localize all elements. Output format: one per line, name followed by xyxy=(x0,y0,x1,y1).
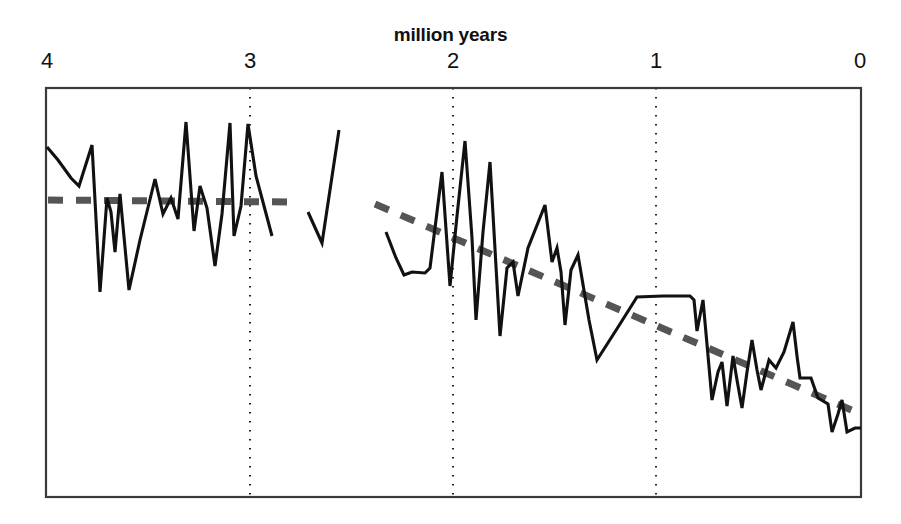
record-segment-3 xyxy=(386,141,861,432)
plot-border xyxy=(46,88,861,497)
record-segment-2 xyxy=(308,130,339,243)
plot-area xyxy=(0,0,901,524)
chart-figure: million years 4 3 2 1 0 xyxy=(0,0,901,524)
plot-frame xyxy=(46,88,861,497)
gridlines-group xyxy=(250,88,656,497)
record-segment-1 xyxy=(47,122,272,292)
trend-lines-group xyxy=(48,200,856,412)
